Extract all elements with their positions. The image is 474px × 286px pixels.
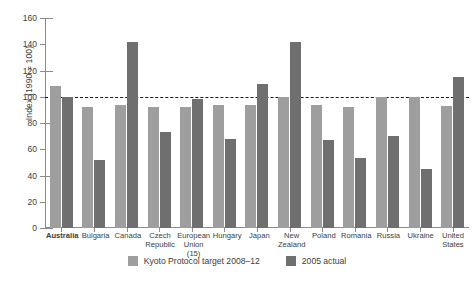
legend-label: Kyoto Protocol target 2008–12 [144,256,260,266]
x-axis-category-label: Australia [45,231,80,258]
legend-swatch-target [128,256,138,266]
bar [388,136,399,228]
bar [192,99,203,228]
bar [441,106,452,228]
y-axis-tick-label: 20 [28,197,37,207]
bar [115,105,126,228]
greenhouse-gas-index-chart: Index (1990 = 100) 020406080100120140160… [0,0,474,286]
x-axis-category-label: Canada [112,231,144,258]
bar-group [45,18,78,228]
y-axis-tick [40,228,53,229]
bar [245,105,256,228]
x-axis-category-label: European Union (15) [176,231,211,258]
bar-group [371,18,404,228]
y-axis-tick-label: 100 [23,92,37,102]
bar [62,97,73,228]
bar [225,139,236,228]
bar [82,107,93,228]
bar-group [306,18,339,228]
bar [453,77,464,228]
bar-group [143,18,176,228]
bar-group [208,18,241,228]
bar-group [273,18,306,228]
bar [323,140,334,228]
bar-group [241,18,274,228]
bar [343,107,354,228]
x-axis-category-label: United States [437,231,469,258]
x-axis-category-label: Romania [340,231,372,258]
bar [376,97,387,228]
bar [127,42,138,228]
bar [278,97,289,228]
bar [94,160,105,228]
y-axis-tick-label: 0 [32,223,37,233]
legend-label: 2005 actual [302,256,346,266]
bar [50,86,61,228]
bar [180,107,191,228]
bar-group [175,18,208,228]
legend-swatch-actual [286,256,296,266]
x-axis-category-label: Poland [308,231,340,258]
y-axis-tick-label: 80 [28,118,37,128]
x-axis-category-label: New Zealand [276,231,308,258]
x-axis-category-label: Bulgaria [80,231,112,258]
y-axis-tick-label: 120 [23,66,37,76]
y-axis-tick-label: 40 [28,171,37,181]
bar [148,107,159,228]
x-axis-category-label: Hungary [211,231,243,258]
bar [311,105,322,228]
bar-group [338,18,371,228]
y-axis-label: Index (1990 = 100) [24,8,34,158]
x-axis-category-label: Japan [243,231,275,258]
bar-group [404,18,437,228]
y-axis-tick-label: 140 [23,39,37,49]
bar [257,84,268,228]
x-axis-category-labels: AustraliaBulgariaCanadaCzech RepublicEur… [45,231,469,258]
bar [290,42,301,228]
bar-group [78,18,111,228]
x-axis-category-label: Russia [372,231,404,258]
x-axis-category-label: Ukraine [405,231,437,258]
y-axis-tick-label: 60 [28,144,37,154]
legend-item: 2005 actual [286,256,346,266]
legend-item: Kyoto Protocol target 2008–12 [128,256,260,266]
y-axis-tick-label: 160 [23,13,37,23]
bar [409,97,420,228]
bar [213,105,224,228]
bar-groups [45,18,469,228]
bar [355,158,366,228]
chart-legend: Kyoto Protocol target 2008–122005 actual [0,256,474,266]
bar-group [436,18,469,228]
x-axis-category-label: Czech Republic [144,231,176,258]
bar [421,169,432,228]
bar-group [110,18,143,228]
plot-area: 020406080100120140160 [45,18,469,228]
bar [160,132,171,228]
